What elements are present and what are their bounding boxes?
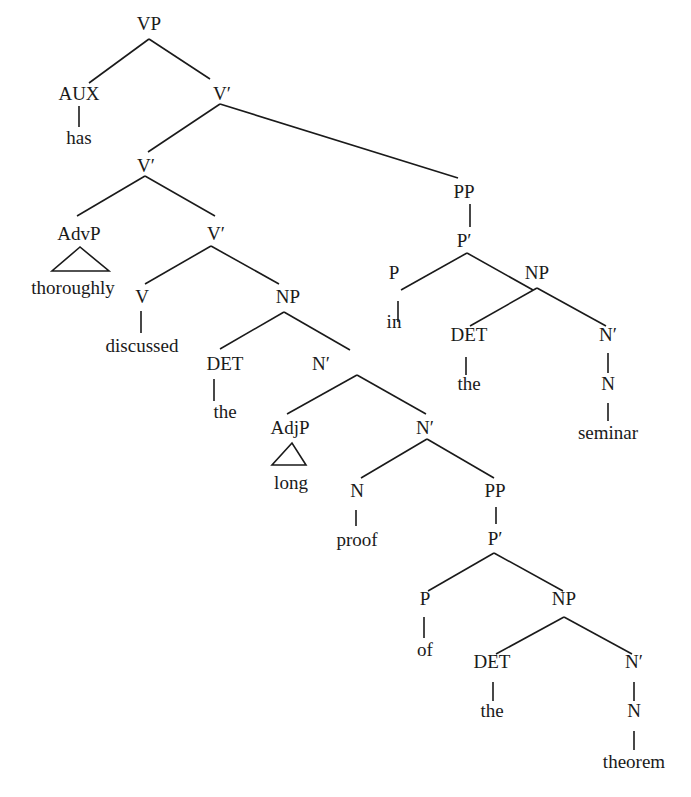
- node-p1: P: [389, 262, 400, 283]
- node-advp: AdvP: [57, 223, 100, 244]
- word-has: has: [66, 127, 91, 148]
- word-thoroughly: thoroughly: [31, 277, 115, 298]
- edge-nbar3-n1: [361, 439, 427, 478]
- node-pp1: PP: [453, 181, 474, 202]
- word-long: long: [274, 472, 308, 493]
- word-theorem: theorem: [603, 751, 665, 772]
- node-n1: N: [350, 480, 364, 501]
- node-pbar2: P′: [488, 528, 503, 549]
- edge-vp_root-aux: [89, 39, 149, 83]
- node-nbar4: N′: [625, 651, 643, 672]
- node-vbar3: V′: [207, 223, 225, 244]
- node-p2: P: [420, 588, 431, 609]
- edge-vbar2-vbar3: [145, 176, 215, 216]
- edge-nbar1-nbar3: [357, 375, 426, 414]
- word-seminar: seminar: [578, 422, 639, 443]
- node-det3: DET: [474, 651, 511, 672]
- node-np1: NP: [276, 286, 300, 307]
- node-n3: N: [627, 700, 641, 721]
- edge-vbar1-vbar2: [148, 104, 220, 152]
- node-pp2: PP: [484, 480, 505, 501]
- node-n2: N: [601, 373, 615, 394]
- node-pbar1: P′: [457, 230, 472, 251]
- edge-np1-det1: [220, 312, 284, 349]
- node-nbar2: N′: [599, 324, 617, 345]
- edge-pbar2-np3: [494, 553, 563, 591]
- node-det1: DET: [207, 353, 244, 374]
- edge-vbar2-advp: [77, 176, 145, 216]
- node-vp_root: VP: [137, 13, 161, 34]
- edge-nbar3-pp2: [427, 439, 494, 478]
- node-nbar1: N′: [312, 353, 330, 374]
- word-the3: the: [480, 700, 503, 721]
- tree-edges: [77, 39, 634, 750]
- edge-vbar3-np1: [211, 246, 279, 284]
- edge-np3-det3: [496, 617, 564, 654]
- edge-np2-nbar2: [537, 288, 606, 326]
- node-nbar3: N′: [416, 417, 434, 438]
- node-det2: DET: [451, 324, 488, 345]
- edge-nbar1-adjp: [287, 375, 357, 414]
- node-adjp: AdjP: [270, 417, 309, 438]
- edge-np1-nbar1: [284, 312, 350, 350]
- triangle-adjp: [272, 443, 306, 465]
- node-np3: NP: [552, 588, 576, 609]
- node-np2: NP: [525, 262, 549, 283]
- syntax-tree-diagram: VPAUXhasV′V′PPP′AdvPthoroughlyV′Vdiscuss…: [0, 0, 691, 797]
- edge-pbar1-p1: [401, 253, 467, 290]
- edge-pbar1-np2: [467, 253, 533, 290]
- edge-pbar2-p2: [428, 553, 494, 591]
- word-of: of: [417, 639, 434, 660]
- triangle-advp: [52, 247, 109, 271]
- edge-vp_root-vbar1: [149, 39, 210, 79]
- word-the2: the: [457, 373, 480, 394]
- node-vbar1: V′: [213, 83, 231, 104]
- edge-np2-det2: [470, 288, 537, 326]
- tree-labels: VPAUXhasV′V′PPP′AdvPthoroughlyV′Vdiscuss…: [31, 13, 665, 772]
- word-discussed: discussed: [106, 335, 179, 356]
- node-vbar2: V′: [137, 155, 155, 176]
- edge-vbar1-pp1: [220, 104, 458, 178]
- edge-vbar3-v: [145, 246, 211, 284]
- node-v: V: [135, 286, 149, 307]
- word-in: in: [387, 311, 402, 332]
- edge-np3-nbar4: [564, 617, 632, 654]
- node-aux: AUX: [58, 83, 99, 104]
- word-proof: proof: [336, 529, 378, 550]
- word-the1: the: [213, 401, 236, 422]
